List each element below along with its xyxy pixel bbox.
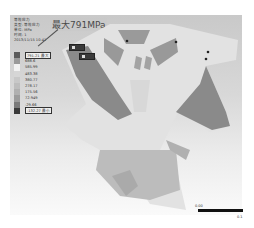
probe-point — [205, 58, 208, 61]
stress-contour-model[interactable] — [0, 0, 254, 228]
max-probe-label[interactable] — [69, 44, 85, 51]
probe-point — [126, 40, 129, 43]
scale-left-label: 0.00 — [195, 204, 203, 208]
scale-bar — [198, 209, 243, 212]
probe-point — [175, 41, 178, 44]
model-region-mid — [96, 150, 180, 200]
probe-point — [207, 51, 210, 54]
scale-right-label: 0.1 — [237, 215, 243, 219]
probe-label[interactable] — [79, 53, 95, 60]
